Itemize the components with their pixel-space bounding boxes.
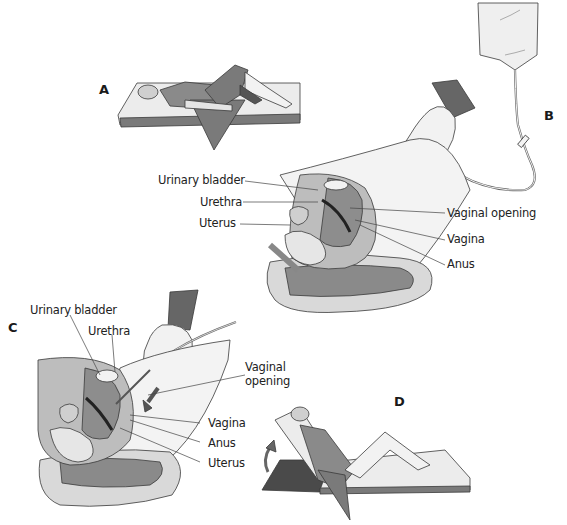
label-b-vaginal-opening: Vaginal opening bbox=[447, 206, 536, 220]
panel-a-illustration bbox=[118, 65, 300, 150]
panel-letter-b: B bbox=[544, 108, 554, 123]
label-b-urinary-bladder: Urinary bladder bbox=[158, 173, 245, 187]
label-b-anus: Anus bbox=[447, 257, 475, 271]
label-b-urethra: Urethra bbox=[200, 195, 242, 209]
panel-letter-c: C bbox=[8, 320, 18, 335]
label-c-vaginal-opening-line2: opening bbox=[245, 374, 290, 388]
label-c-vaginal-opening-line1: Vaginal bbox=[245, 360, 286, 374]
illustration-canvas bbox=[0, 0, 567, 525]
label-b-vagina: Vagina bbox=[447, 232, 485, 246]
panel-letter-a: A bbox=[99, 82, 109, 97]
label-b-uterus: Uterus bbox=[199, 216, 236, 230]
panel-b-illustration bbox=[267, 3, 538, 313]
label-c-vagina: Vagina bbox=[208, 416, 246, 430]
label-c-urinary-bladder: Urinary bladder bbox=[30, 303, 117, 317]
panel-d-illustration bbox=[262, 407, 470, 520]
label-c-uterus: Uterus bbox=[208, 456, 245, 470]
panel-c-illustration bbox=[38, 290, 236, 506]
panel-letter-d: D bbox=[394, 394, 405, 409]
label-c-urethra: Urethra bbox=[88, 324, 130, 338]
label-c-anus: Anus bbox=[208, 436, 236, 450]
